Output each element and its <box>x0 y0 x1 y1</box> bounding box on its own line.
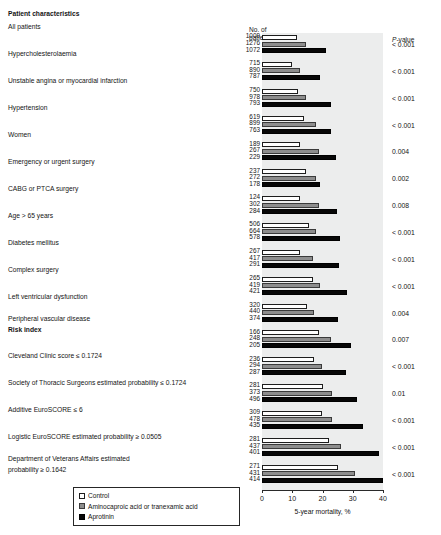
legend-swatch-icon <box>79 493 85 499</box>
bar-amino <box>262 471 355 476</box>
bar-ctrl <box>262 116 304 121</box>
legend-label: Control <box>88 492 109 499</box>
patient-count-value: 284 <box>236 208 260 215</box>
bar-apro <box>262 129 331 134</box>
row-label: Society of Thoracic Surgeons estimated p… <box>8 379 186 388</box>
bar-ctrl <box>262 89 298 94</box>
bar-group <box>262 384 383 408</box>
bar-amino <box>262 364 322 369</box>
row-label: Additive EuroSCORE ≤ 6 <box>8 406 83 415</box>
bar-ctrl <box>262 330 319 335</box>
legend-label: Aprotinin <box>88 513 114 520</box>
axis-tick <box>262 490 263 493</box>
pvalue-value: < 0.001 <box>392 68 436 75</box>
pvalue-value: < 0.001 <box>392 471 436 478</box>
bar-group <box>262 222 383 246</box>
axis-tick-label: 0 <box>250 495 274 502</box>
bar-amino <box>262 391 332 396</box>
bar-apro <box>262 155 336 160</box>
bar-apro <box>262 290 347 295</box>
row-label: Department of Veterans Affairs estimated <box>8 455 130 464</box>
row-label: Unstable angina or myocardial infarction <box>8 77 127 86</box>
section-header-label: Risk index <box>8 326 41 335</box>
bar-apro <box>262 451 379 456</box>
axis-tick-label: 20 <box>311 495 335 502</box>
patient-count-value: 414 <box>236 476 260 483</box>
bar-apro <box>262 102 331 107</box>
bar-apro <box>262 48 326 53</box>
row-label-column: Patient characteristicsAll patientsHyper… <box>8 0 248 535</box>
bar-apro <box>262 317 338 322</box>
pvalue-value: 0.008 <box>392 202 436 209</box>
patient-count-value: 374 <box>236 315 260 322</box>
pvalue-value: < 0.001 <box>392 122 436 129</box>
bar-group <box>262 61 383 85</box>
row-label: Hypercholesterolaemia <box>8 50 76 59</box>
pvalue-value: 0.002 <box>392 175 436 182</box>
bar-amino <box>262 68 300 73</box>
bar-group <box>262 88 383 112</box>
legend-swatch-icon <box>79 514 85 520</box>
bar-amino <box>262 417 332 422</box>
bar-group <box>262 410 383 434</box>
bar-ctrl <box>262 196 300 201</box>
legend-swatch-icon <box>79 503 85 509</box>
pvalue-value: 0.004 <box>392 310 436 317</box>
patient-count-value: 1072 <box>236 47 260 54</box>
legend-label: Aminocaproic acid or tranexamic acid <box>88 503 198 510</box>
bar-amino <box>262 122 316 127</box>
row-label: Complex surgery <box>8 266 59 275</box>
bar-group <box>262 330 383 354</box>
bar-apro <box>262 236 340 241</box>
patient-count-value: 435 <box>236 422 260 429</box>
row-label: Left ventricular dysfunction <box>8 293 88 302</box>
pvalue-value: < 0.001 <box>392 283 436 290</box>
section-header-label: Patient characteristics <box>8 10 79 19</box>
bar-group <box>262 142 383 166</box>
axis-tick <box>323 490 324 493</box>
row-label: CABG or PTCA surgery <box>8 185 78 194</box>
patient-count-value: 205 <box>236 342 260 349</box>
bar-group <box>262 115 383 139</box>
bar-amino <box>262 42 306 47</box>
patient-count-value: 401 <box>236 449 260 456</box>
axis-tick-label: 30 <box>341 495 365 502</box>
bar-apro <box>262 263 339 268</box>
row-label: Emergency or urgent surgery <box>8 158 95 167</box>
bar-group <box>262 169 383 193</box>
bar-group <box>262 464 383 488</box>
axis-tick-label: 40 <box>371 495 395 502</box>
pvalue-value: 0.007 <box>392 336 436 343</box>
bar-apro <box>262 343 351 348</box>
row-label: Age > 65 years <box>8 212 53 221</box>
patient-count-value: 787 <box>236 73 260 80</box>
pvalue-value: 0.01 <box>392 390 436 397</box>
x-axis-label: 5-year mortality, % <box>262 508 383 515</box>
bar-apro <box>262 478 383 483</box>
bar-amino <box>262 256 313 261</box>
row-label: All patients <box>8 23 41 32</box>
bar-ctrl <box>262 384 323 389</box>
bar-amino <box>262 176 316 181</box>
bar-ctrl <box>262 465 338 470</box>
patient-count-value: 287 <box>236 369 260 376</box>
bar-group <box>262 249 383 273</box>
row-label: Women <box>8 131 31 140</box>
pvalue-value: < 0.001 <box>392 41 436 48</box>
pvalue-value: < 0.001 <box>392 256 436 263</box>
axis-tick <box>292 490 293 493</box>
axis-tick-label: 10 <box>280 495 304 502</box>
bar-apro <box>262 424 363 429</box>
legend-item: Aminocaproic acid or tranexamic acid <box>79 502 198 512</box>
bar-amino <box>262 149 319 154</box>
pvalue-value: 0.004 <box>392 148 436 155</box>
pvalue-value: < 0.001 <box>392 229 436 236</box>
bar-ctrl <box>262 35 297 40</box>
pvalue-value: < 0.001 <box>392 444 436 451</box>
patient-count-value: 496 <box>236 396 260 403</box>
bar-apro <box>262 209 337 214</box>
pvalue-value: < 0.001 <box>392 417 436 424</box>
bar-ctrl <box>262 304 307 309</box>
row-label: Diabetes mellitus <box>8 239 59 248</box>
bar-apro <box>262 182 320 187</box>
